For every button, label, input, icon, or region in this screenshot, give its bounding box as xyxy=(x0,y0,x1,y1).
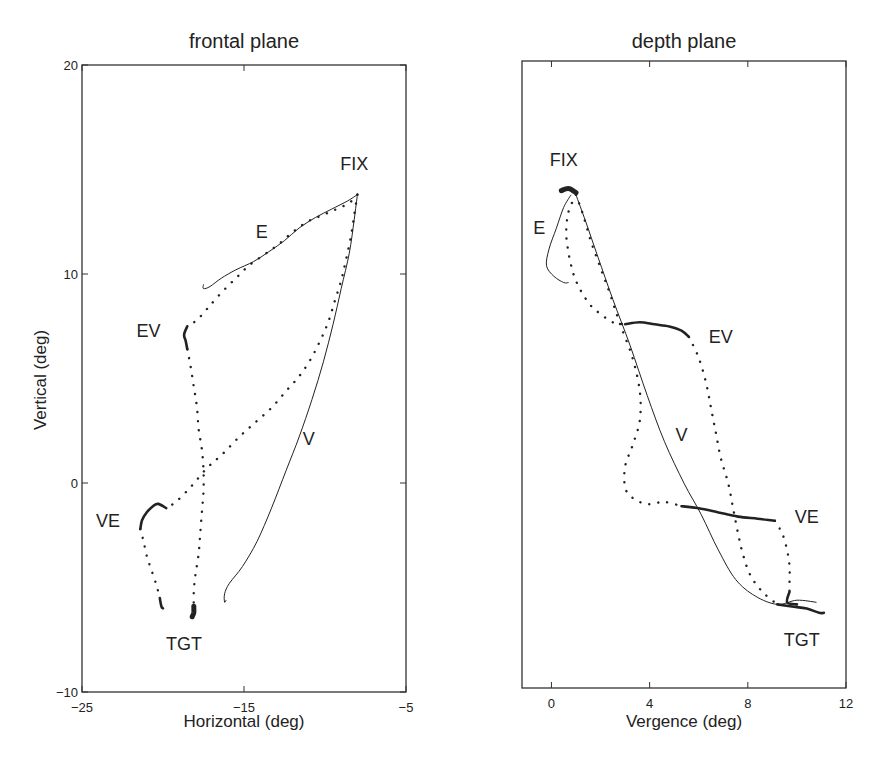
figure: frontal plane Horizontal (deg) Vertical … xyxy=(0,0,874,760)
trace xyxy=(682,506,775,521)
trace xyxy=(576,195,682,506)
trace xyxy=(787,592,797,605)
y-tick-label: 10 xyxy=(64,267,78,282)
trace-label: V xyxy=(676,425,688,445)
trace-label: FIX xyxy=(340,154,368,174)
trace xyxy=(187,349,203,606)
trace-label: V xyxy=(303,429,315,449)
trace-label: VE xyxy=(96,511,120,531)
trace xyxy=(689,337,777,605)
traces xyxy=(546,188,824,613)
trace xyxy=(187,195,357,327)
trace xyxy=(576,195,817,605)
x-tick-label: 8 xyxy=(744,696,751,711)
x-tick-label: −5 xyxy=(399,700,414,715)
trace xyxy=(561,188,576,192)
trace xyxy=(160,598,163,608)
trace-label: FIX xyxy=(550,150,578,170)
trace xyxy=(625,322,689,337)
y-axis-label: Vertical (deg) xyxy=(31,330,50,430)
traces xyxy=(140,195,357,617)
trace xyxy=(184,326,187,349)
y-tick-label: 20 xyxy=(64,58,78,73)
trace xyxy=(192,606,194,617)
chart-title: depth plane xyxy=(632,30,737,52)
y-tick-label: 0 xyxy=(71,476,78,491)
trace xyxy=(140,529,160,598)
trace-label: EV xyxy=(709,327,733,347)
x-tick-label: 4 xyxy=(646,696,653,711)
trace-label: VE xyxy=(795,507,819,527)
trace-label: TGT xyxy=(166,634,202,654)
trace xyxy=(224,195,357,603)
y-tick-label: −10 xyxy=(56,685,78,700)
x-tick-label: 0 xyxy=(548,696,555,711)
trace-label: TGT xyxy=(784,630,820,650)
depth-plane-chart: depth plane Vergence (deg) 04812 FIXEEVV… xyxy=(522,30,853,731)
trace xyxy=(140,504,166,529)
trace xyxy=(777,604,824,613)
x-tick-label: −15 xyxy=(233,700,255,715)
frontal-plane-chart: frontal plane Horizontal (deg) Vertical … xyxy=(31,30,413,731)
trace xyxy=(775,521,790,596)
x-axis-label: Vergence (deg) xyxy=(626,712,742,731)
trace-label: E xyxy=(256,222,268,242)
annotations: FIXEEVVVETGT xyxy=(533,150,820,651)
trace xyxy=(566,195,625,324)
chart-title: frontal plane xyxy=(189,30,299,52)
x-tick-label: −25 xyxy=(71,700,93,715)
trace-label: EV xyxy=(136,321,160,341)
trace-label: E xyxy=(533,218,545,238)
x-tick-label: 12 xyxy=(839,696,853,711)
